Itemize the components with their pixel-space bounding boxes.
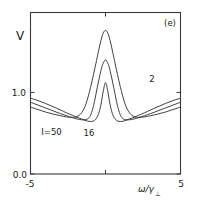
x-axis-title-subscript: ⊥ [155, 190, 161, 198]
panel-label: (e) [164, 18, 176, 28]
curve-label-i50: I=50 [41, 127, 61, 137]
x-tick-label-min: -5 [26, 179, 35, 189]
chart-canvas: V 1.0 0.0 -5 5 ω/γ ⊥ (e) I=50 16 2 [0, 0, 199, 206]
y-tick-label-1: 1.0 [12, 88, 27, 98]
figure-background [0, 0, 199, 206]
curve-label-16: 16 [84, 128, 95, 138]
x-tick-label-max: 5 [178, 179, 184, 189]
curve-label-2: 2 [149, 74, 154, 84]
y-axis-title: V [16, 29, 25, 43]
x-axis-title: ω/γ [138, 184, 155, 194]
chart-figure: V 1.0 0.0 -5 5 ω/γ ⊥ (e) I=50 16 2 [0, 0, 199, 206]
